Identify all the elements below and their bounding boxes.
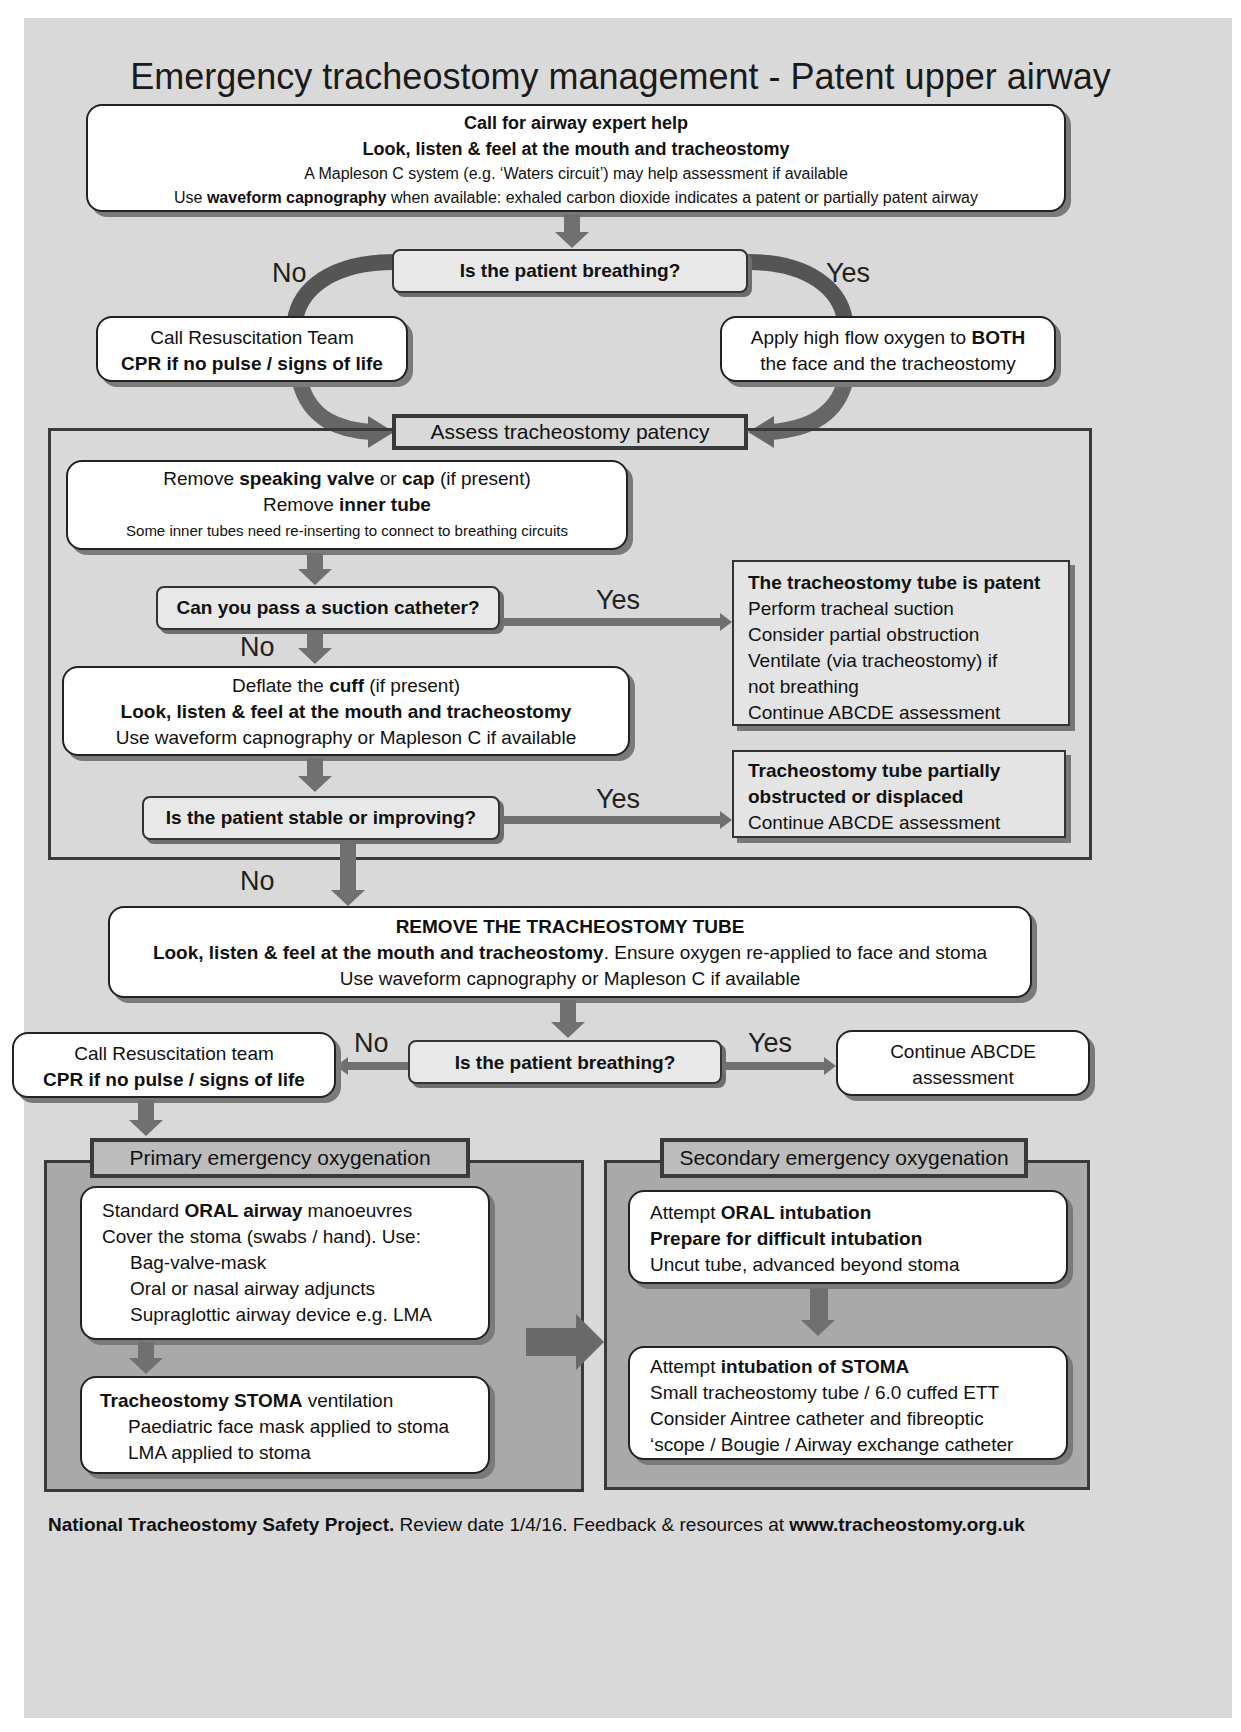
list-item: Bag-valve-mask xyxy=(102,1250,488,1276)
primary-oxygenation-label: Primary emergency oxygenation xyxy=(90,1138,470,1178)
curved-arrows-icon xyxy=(0,0,1241,480)
oxygen-line-1: Apply high flow oxygen to BOTH xyxy=(722,325,1054,351)
oral-intubation-box: Attempt ORAL intubation Prepare for diff… xyxy=(628,1190,1068,1284)
footer-review: Review date 1/4/16. Feedback & resources… xyxy=(394,1514,789,1535)
arrow-down-icon xyxy=(560,1000,576,1024)
partial-heading: obstructed or displaced xyxy=(748,784,1050,810)
arrow-down-icon xyxy=(307,553,323,571)
arrow-down-icon xyxy=(138,1100,154,1122)
remove-inner-tube-line: Remove inner tube xyxy=(68,492,626,518)
list-item: Small tracheostomy tube / 6.0 cuffed ETT xyxy=(650,1380,1066,1406)
cpr-text: CPR if no pulse / signs of life xyxy=(98,351,406,377)
footer: National Tracheostomy Safety Project. Re… xyxy=(48,1514,1025,1536)
arrow-down-icon xyxy=(340,842,356,892)
yes-label: Yes xyxy=(596,585,640,616)
footer-url[interactable]: www.tracheostomy.org.uk xyxy=(789,1514,1024,1535)
patent-line: Perform tracheal suction xyxy=(748,596,1054,622)
continue-text: Continue ABCDE xyxy=(838,1039,1088,1065)
arrow-down-icon xyxy=(307,632,323,650)
remove-valve-box: Remove speaking valve or cap (if present… xyxy=(66,460,628,550)
stoma-intubation-box: Attempt intubation of STOMA Small trache… xyxy=(628,1346,1068,1460)
secondary-oxygenation-label: Secondary emergency oxygenation xyxy=(660,1138,1028,1178)
yes-label: Yes xyxy=(748,1028,792,1059)
oral-airway-box: Standard ORAL airway manoeuvres Cover th… xyxy=(80,1186,490,1340)
list-item: Oral or nasal airway adjuncts xyxy=(102,1276,488,1302)
question-text: Can you pass a suction catheter? xyxy=(176,597,479,618)
stoma-ventilation-line: Tracheostomy STOMA ventilation xyxy=(100,1388,488,1414)
oral-airway-line: Standard ORAL airway manoeuvres xyxy=(102,1198,488,1224)
inner-tube-note: Some inner tubes need re-inserting to co… xyxy=(68,518,626,544)
deflate-line: Deflate the cuff (if present) xyxy=(64,673,628,699)
remove-tube-heading: REMOVE THE TRACHEOSTOMY TUBE xyxy=(110,914,1030,940)
yes-label: Yes xyxy=(596,784,640,815)
call-resus-box-2: Call Resuscitation team CPR if no pulse … xyxy=(12,1032,336,1098)
arrow-right-icon xyxy=(502,816,720,824)
footer-org: National Tracheostomy Safety Project. xyxy=(48,1514,394,1535)
patent-line: Ventilate (via tracheostomy) if xyxy=(748,648,1054,674)
no-label: No xyxy=(272,258,307,289)
uncut-tube-line: Uncut tube, advanced beyond stoma xyxy=(650,1252,1066,1278)
remove-tube-line-2: Look, listen & feel at the mouth and tra… xyxy=(110,940,1030,966)
cover-stoma-line: Cover the stoma (swabs / hand). Use: xyxy=(102,1224,488,1250)
list-item: Paediatric face mask applied to stoma xyxy=(100,1414,488,1440)
question-text: Is the patient stable or improving? xyxy=(166,807,476,828)
patent-line: Continue ABCDE assessment xyxy=(748,700,1054,726)
question-breathing-1: Is the patient breathing? xyxy=(392,249,748,293)
assess-patency-label: Assess tracheostomy patency xyxy=(392,414,748,450)
call-resus-box-1: Call Resuscitation Team CPR if no pulse … xyxy=(96,316,408,382)
question-suction-catheter: Can you pass a suction catheter? xyxy=(156,586,500,630)
question-breathing-2: Is the patient breathing? xyxy=(408,1040,722,1084)
arrow-left-icon xyxy=(348,1062,408,1070)
yes-label: Yes xyxy=(826,258,870,289)
look-listen-line: Look, listen & feel at the mouth and tra… xyxy=(64,699,628,725)
high-flow-oxygen-box: Apply high flow oxygen to BOTH the face … xyxy=(720,316,1056,382)
call-resus-text: Call Resuscitation Team xyxy=(98,325,406,351)
arrow-down-icon xyxy=(307,758,323,778)
arrow-right-icon xyxy=(724,1062,824,1070)
partial-obstruction-box: Tracheostomy tube partially obstructed o… xyxy=(732,750,1066,838)
no-label: No xyxy=(240,866,275,897)
arrow-down-icon xyxy=(138,1342,154,1360)
question-stable-improving: Is the patient stable or improving? xyxy=(142,796,500,840)
oral-intubation-line: Attempt ORAL intubation xyxy=(650,1200,1066,1226)
no-label: No xyxy=(240,632,275,663)
remove-tube-box: REMOVE THE TRACHEOSTOMY TUBE Look, liste… xyxy=(108,906,1032,998)
arrow-right-icon xyxy=(502,618,720,626)
oxygen-line-2: the face and the tracheostomy xyxy=(722,351,1054,377)
question-text: Is the patient breathing? xyxy=(460,260,681,281)
stoma-ventilation-box: Tracheostomy STOMA ventilation Paediatri… xyxy=(80,1376,490,1474)
no-label: No xyxy=(354,1028,389,1059)
list-item: Supraglottic airway device e.g. LMA xyxy=(102,1302,488,1328)
patent-heading: The tracheostomy tube is patent xyxy=(748,570,1054,596)
remove-valve-line: Remove speaking valve or cap (if present… xyxy=(68,466,626,492)
list-item: LMA applied to stoma xyxy=(100,1440,488,1466)
patent-line: not breathing xyxy=(748,674,1054,700)
question-text: Is the patient breathing? xyxy=(455,1052,676,1073)
deflate-cuff-box: Deflate the cuff (if present) Look, list… xyxy=(62,666,630,756)
capnography-line: Use waveform capnography or Mapleson C i… xyxy=(64,725,628,751)
list-item: ‘scope / Bougie / Airway exchange cathet… xyxy=(650,1432,1066,1458)
arrow-down-icon xyxy=(810,1288,828,1322)
arrow-right-icon xyxy=(526,1314,606,1370)
patent-line: Consider partial obstruction xyxy=(748,622,1054,648)
tube-patent-box: The tracheostomy tube is patent Perform … xyxy=(732,560,1070,726)
difficult-intubation-line: Prepare for difficult intubation xyxy=(650,1226,1066,1252)
continue-text: assessment xyxy=(838,1065,1088,1091)
call-resus-text: Call Resuscitation team xyxy=(14,1041,334,1067)
continue-abcde-box: Continue ABCDE assessment xyxy=(836,1030,1090,1096)
partial-line: Continue ABCDE assessment xyxy=(748,810,1050,836)
stoma-intubation-line: Attempt intubation of STOMA xyxy=(650,1354,1066,1380)
remove-tube-line-3: Use waveform capnography or Mapleson C i… xyxy=(110,966,1030,992)
cpr-text: CPR if no pulse / signs of life xyxy=(14,1067,334,1093)
partial-heading: Tracheostomy tube partially xyxy=(748,758,1050,784)
list-item: Consider Aintree catheter and fibreoptic xyxy=(650,1406,1066,1432)
